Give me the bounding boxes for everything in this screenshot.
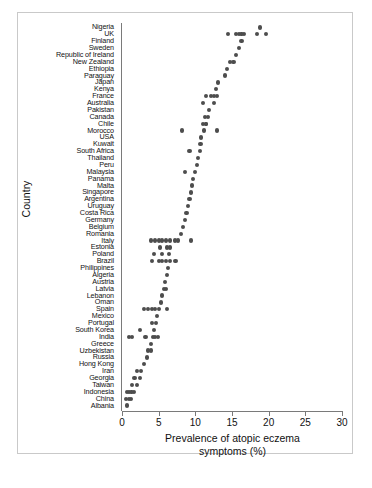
x-tick <box>122 412 123 416</box>
data-point <box>176 238 180 242</box>
data-point <box>149 348 153 352</box>
data-point <box>189 238 193 242</box>
data-point <box>202 128 206 132</box>
data-point <box>187 197 191 201</box>
x-tick <box>305 412 306 416</box>
data-point <box>187 149 191 153</box>
data-point <box>138 376 142 380</box>
data-point <box>154 321 158 325</box>
x-tick-label: 5 <box>156 417 162 428</box>
data-point <box>225 67 229 71</box>
x-tick <box>232 412 233 416</box>
data-point <box>168 238 172 242</box>
y-axis-title: Country <box>20 139 32 259</box>
data-point <box>125 403 129 407</box>
data-point <box>193 170 197 174</box>
data-point <box>189 190 193 194</box>
data-point <box>216 80 220 84</box>
data-point <box>168 259 172 263</box>
data-point <box>206 115 210 119</box>
data-point <box>199 135 203 139</box>
data-point <box>237 46 241 50</box>
x-axis-title: Prevalence of atopic eczema symptoms (%) <box>122 432 343 458</box>
data-point <box>132 376 136 380</box>
x-tick-label: 25 <box>300 417 311 428</box>
data-point <box>180 128 184 132</box>
x-tick-label: 10 <box>190 417 201 428</box>
x-tick-label: 15 <box>226 417 237 428</box>
data-point <box>239 39 243 43</box>
chart-figure: NigeriaUKFinlandSwedenRepublic of Irelan… <box>17 12 353 454</box>
x-tick-label: 20 <box>263 417 274 428</box>
data-point <box>215 128 219 132</box>
x-tick-label: 30 <box>336 417 347 428</box>
data-point <box>234 53 238 57</box>
x-tick-label: 0 <box>119 417 125 428</box>
x-axis-title-line2: symptoms (%) <box>122 445 343 458</box>
x-tick <box>342 412 343 416</box>
y-category-label: Albania <box>91 402 114 409</box>
x-tick <box>269 412 270 416</box>
x-axis-title-line1: Prevalence of atopic eczema <box>122 432 343 445</box>
data-point <box>159 300 163 304</box>
data-point <box>165 273 169 277</box>
x-tick <box>195 412 196 416</box>
data-point <box>184 211 188 215</box>
data-point <box>181 225 185 229</box>
data-point <box>168 245 172 249</box>
data-point <box>164 287 168 291</box>
data-point <box>156 335 160 339</box>
data-point <box>258 25 262 29</box>
plot-area <box>122 24 342 409</box>
data-point <box>132 390 136 394</box>
data-point <box>173 259 177 263</box>
data-point <box>158 245 162 249</box>
data-point <box>145 355 149 359</box>
data-point <box>143 335 147 339</box>
data-point <box>183 170 187 174</box>
data-point <box>191 177 195 181</box>
y-axis-line <box>121 23 122 411</box>
data-point <box>223 73 227 77</box>
x-tick <box>159 412 160 416</box>
data-point <box>204 94 208 98</box>
data-point <box>198 142 202 146</box>
data-point <box>129 397 133 401</box>
data-point <box>195 163 199 167</box>
data-point <box>135 383 139 387</box>
data-point <box>231 60 235 64</box>
y-axis-category-labels: NigeriaUKFinlandSwedenRepublic of Irelan… <box>18 24 118 409</box>
